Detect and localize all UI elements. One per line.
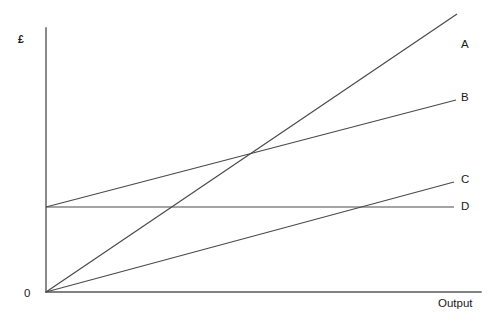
cost-output-chart: £ 0 Output A B C D — [0, 0, 498, 328]
series-label-d: D — [461, 201, 469, 213]
series-label-c: C — [461, 174, 469, 186]
x-axis-label: Output — [438, 298, 473, 310]
series-line-c — [46, 182, 454, 292]
y-axis-label: £ — [18, 34, 24, 45]
series-line-b — [46, 100, 456, 207]
origin-label: 0 — [24, 288, 30, 300]
series-label-b: B — [461, 92, 469, 104]
series-label-a: A — [461, 39, 469, 51]
chart-canvas — [0, 0, 498, 328]
